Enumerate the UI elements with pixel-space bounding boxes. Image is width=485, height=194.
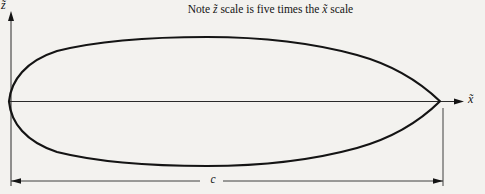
x-axis-arrowhead-icon (454, 99, 464, 105)
airfoil-diagram-svg (0, 0, 485, 194)
scale-note: Note z̃ scale is five times the x̃ scale (128, 3, 413, 16)
scale-note-pre: Note (188, 3, 210, 15)
chord-length-label: c (203, 173, 223, 185)
scale-note-post: scale (330, 3, 353, 15)
dimension-arrowhead-right-icon (433, 178, 443, 184)
x-axis-label: x̃ (468, 93, 473, 105)
scale-note-mid: scale is five times the (220, 3, 319, 15)
scale-note-x-variable: x̃ (322, 3, 327, 15)
airfoil-figure: Note z̃ scale is five times the x̃ scale… (0, 0, 485, 194)
z-axis-arrowhead-icon (8, 11, 14, 21)
z-axis-label: z̃ (1, 0, 6, 11)
scale-note-z-variable: z̃ (213, 3, 217, 15)
dimension-arrowhead-left-icon (11, 178, 21, 184)
